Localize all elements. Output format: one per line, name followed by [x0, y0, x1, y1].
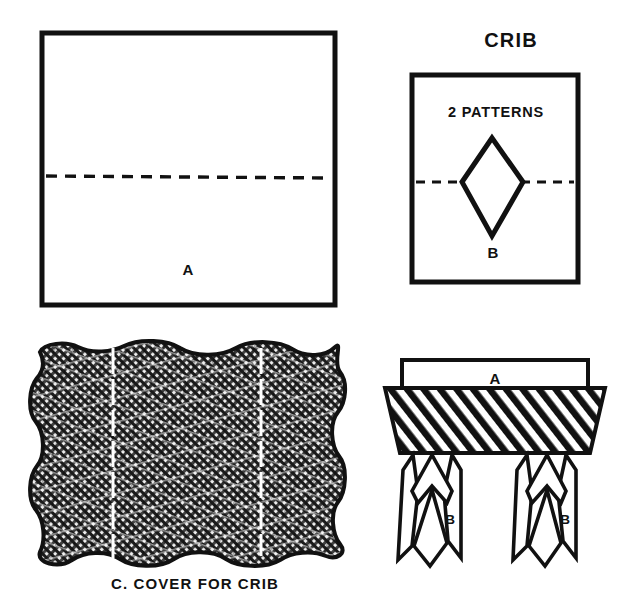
cover-caption: C. COVER FOR CRIB — [111, 575, 279, 592]
pattern-b-heading: 2 PATTERNS — [448, 104, 544, 120]
assembly-leg-left-label: B — [445, 512, 455, 527]
illustration-sheet: CRIB A 2 PATTERNS B — [0, 0, 640, 612]
page-title: CRIB — [484, 29, 538, 51]
cover-panel: C. COVER FOR CRIB — [20, 330, 360, 592]
assembly-leg-right-label: B — [560, 512, 570, 527]
assembly-top-label: A — [490, 370, 501, 387]
assembly-leg-right: B — [513, 455, 576, 566]
assembly-body — [385, 388, 605, 453]
assembly-leg-left: B — [398, 455, 461, 566]
pattern-a-panel: A — [42, 33, 335, 305]
pattern-a-label: A — [183, 261, 194, 278]
crib-instruction-figure: CRIB A 2 PATTERNS B — [0, 0, 640, 612]
pattern-b-label: B — [488, 244, 499, 261]
pattern-b-panel: 2 PATTERNS B — [412, 75, 578, 282]
cover-texture — [20, 330, 360, 580]
assembly-panel: A B B — [385, 360, 605, 566]
